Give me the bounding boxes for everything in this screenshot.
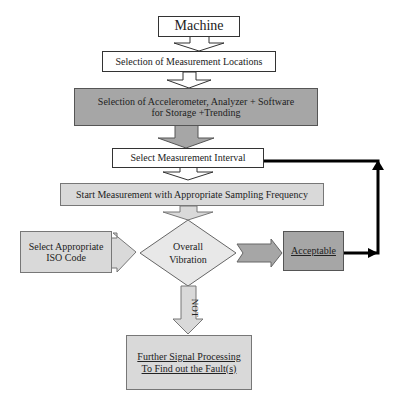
node-iso-label-line1: Select Appropriate [29,241,104,253]
arrow-start-to-decision [163,206,213,220]
arrow-machine-to-locations [174,36,224,51]
node-iso-label-line2: ISO Code [46,252,86,264]
node-interval-label: Select Measurement Interval [131,152,246,164]
node-acceptable-label: Acceptable [291,245,336,257]
arrow-locations-to-equipment [167,72,211,88]
arrow-equipment-to-interval [158,125,214,148]
node-iso-code: Select Appropriate ISO Code [20,231,112,273]
node-further-processing: Further Signal Processing To Find out th… [126,335,252,390]
node-equipment-label-line1: Selection of Accelerometer, Analyzer + S… [98,96,294,108]
node-start-label: Start Measurement with Appropriate Sampl… [76,189,308,201]
arrow-iso-to-decision [110,233,136,272]
decision-label: Overall Vibration [150,240,226,266]
edge-label-not: NOT [176,296,200,320]
node-acceptable: Acceptable [283,231,344,271]
decision-label-line2: Vibration [150,253,226,266]
node-equipment-label-line2: for Storage +Trending [151,107,240,119]
arrow-decision-to-acceptable [237,239,282,267]
node-further-label-line1: Further Signal Processing [137,351,240,363]
node-locations-label: Selection of Measurement Locations [116,56,263,68]
node-further-label-line2: To Find out the Fault(s) [142,363,237,375]
node-equipment-selection: Selection of Accelerometer, Analyzer + S… [74,88,318,126]
edge-label-not-text: NOT [190,299,200,318]
node-start-measurement: Start Measurement with Appropriate Sampl… [60,183,324,206]
node-machine-label: Machine [175,18,224,34]
node-measurement-interval: Select Measurement Interval [112,148,264,168]
decision-label-line1: Overall [150,240,226,253]
arrow-interval-to-start [163,166,213,180]
node-machine: Machine [158,16,240,37]
node-measurement-locations: Selection of Measurement Locations [102,51,276,72]
